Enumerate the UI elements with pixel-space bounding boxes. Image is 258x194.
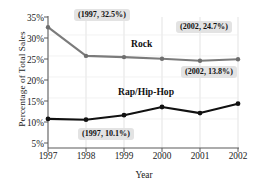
chart-container: Percentage of Total Sales 35% 30% 25% 20… — [0, 0, 258, 194]
x-tick-label: 1997 — [30, 152, 66, 161]
x-tick-label: 2000 — [144, 152, 180, 161]
x-axis-title: Year — [48, 170, 240, 180]
x-tick-label: 2001 — [182, 152, 218, 161]
x-tick-label: 2002 — [220, 152, 256, 161]
x-tick-label: 1998 — [68, 152, 104, 161]
x-axis-tick-labels: 1997 1998 1999 2000 2001 2002 — [0, 0, 258, 194]
x-tick-label: 1999 — [106, 152, 142, 161]
